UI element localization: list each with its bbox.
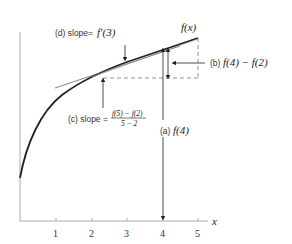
tick-4: 4 bbox=[160, 228, 165, 239]
curve-f bbox=[20, 38, 198, 178]
curve-label: f(x) bbox=[181, 21, 197, 34]
secant-line bbox=[92, 39, 198, 77]
label-d-tag: (d) slope= bbox=[55, 28, 93, 38]
x-axis-label: x bbox=[211, 215, 217, 227]
label-c-tag: (c) slope = bbox=[68, 114, 108, 124]
diagram-canvas: 1 2 3 4 5 x f(x) (a) f(4) (b) f(4) − f(2… bbox=[0, 0, 292, 244]
label-b-expr: f(4) − f(2) bbox=[223, 56, 268, 69]
tick-3: 3 bbox=[124, 228, 129, 239]
label-b-tag: (b) bbox=[210, 58, 221, 68]
tick-2: 2 bbox=[89, 228, 94, 239]
label-a-expr: f(4) bbox=[173, 124, 189, 137]
tick-1: 1 bbox=[53, 228, 58, 239]
tick-5: 5 bbox=[195, 228, 200, 239]
label-a-tag: (a) bbox=[160, 126, 171, 136]
label-c-denominator: 5 − 2 bbox=[121, 119, 138, 128]
label-d-expr: f′(3) bbox=[97, 26, 116, 39]
label-c-numerator: f(5) − f(2) bbox=[112, 109, 143, 118]
